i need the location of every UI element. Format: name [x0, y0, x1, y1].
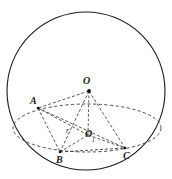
geometry-figure: O O1 A B C r: [0, 0, 172, 179]
label-circle-center-subscript: 1: [92, 137, 95, 143]
point-O-dot: [87, 89, 91, 93]
point-C-dot: [124, 147, 127, 150]
segment-O-A: [38, 91, 89, 108]
geometry-canvas: [0, 0, 172, 179]
point-A-dot: [37, 107, 40, 110]
label-circle-center: O1: [85, 129, 95, 141]
point-B-dot: [59, 151, 62, 154]
segment-O1-B: [60, 135, 88, 152]
label-vertex-b: B: [56, 155, 63, 165]
label-vertex-c: C: [123, 151, 130, 161]
label-sphere-center: O: [83, 76, 90, 86]
sphere-outline: [7, 12, 165, 170]
segment-A-C: [38, 108, 125, 148]
segment-B-C: [60, 148, 125, 152]
label-vertex-a: A: [30, 96, 37, 106]
segment-A-B: [38, 108, 60, 152]
segment-O1-A: [38, 108, 88, 135]
label-radius-r: r: [66, 127, 69, 135]
